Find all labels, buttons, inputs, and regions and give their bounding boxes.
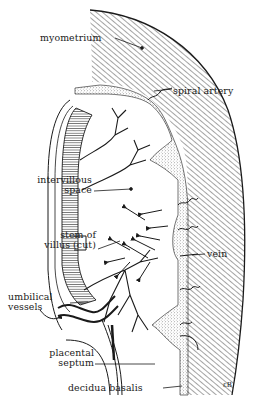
label-text-line-2: villus (cut)	[22, 240, 96, 250]
label-text-line-2: septum	[20, 358, 94, 368]
label-placental-septum: placental septum	[20, 348, 94, 368]
label-text-line-2: space	[20, 185, 92, 195]
label-umbilical-vessels: umbilical vessels	[8, 292, 53, 312]
label-text: myometrium	[40, 32, 101, 43]
label-text: vein	[207, 248, 227, 259]
label-text: spiral artery	[173, 85, 233, 96]
artist-signature: εB	[223, 381, 232, 389]
label-text-line-2: vessels	[8, 302, 53, 312]
chorionic-plate	[48, 100, 96, 330]
placenta-diagram: myometrium spiral artery intervillous sp…	[0, 0, 255, 402]
label-vein: vein	[207, 249, 227, 259]
label-intervillous-space: intervillous space	[20, 175, 92, 195]
blood-flow-arrows	[108, 208, 168, 278]
label-spiral-artery: spiral artery	[173, 86, 233, 96]
label-stem-of-villus: stem of villus (cut)	[22, 230, 96, 250]
diagram-artwork	[0, 0, 255, 402]
label-myometrium: myometrium	[40, 33, 101, 43]
label-text: decidua basalis	[68, 382, 143, 393]
label-decidua-basalis: decidua basalis	[68, 383, 143, 393]
